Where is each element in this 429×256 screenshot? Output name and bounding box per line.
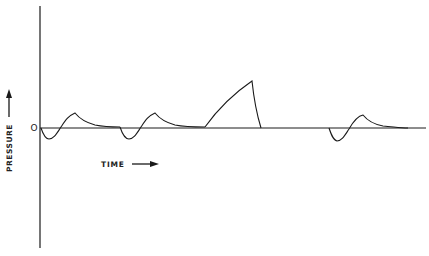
pressure-time-diagram: O PRESSURE TIME xyxy=(0,0,429,256)
waveform-normal-2 xyxy=(120,113,205,139)
pressure-label: PRESSURE xyxy=(5,124,14,172)
waveform-normal-1 xyxy=(41,113,120,139)
pressure-label-group: PRESSURE xyxy=(5,89,14,172)
up-arrow-icon xyxy=(6,89,12,98)
time-label: TIME xyxy=(101,160,125,169)
waveform-large-spike xyxy=(205,81,261,128)
time-label-group: TIME xyxy=(101,160,159,169)
zero-label: O xyxy=(30,123,37,133)
right-arrow-icon xyxy=(150,161,159,167)
